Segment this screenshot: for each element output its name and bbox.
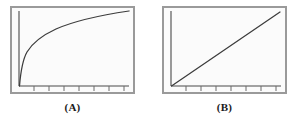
- figure-container: (A) (B): [0, 0, 305, 122]
- plot-panel-a: [10, 6, 135, 94]
- line-linear-b: [172, 12, 281, 86]
- curve-logarithmic-a: [20, 11, 130, 86]
- plot-area-a: [10, 6, 135, 94]
- x-ticks-b: [186, 86, 276, 91]
- x-ticks-a: [34, 86, 124, 91]
- panel-caption-a: (A): [10, 100, 135, 114]
- plot-panel-b: [162, 6, 287, 94]
- plot-area-b: [162, 6, 287, 94]
- panel-caption-b: (B): [162, 100, 287, 114]
